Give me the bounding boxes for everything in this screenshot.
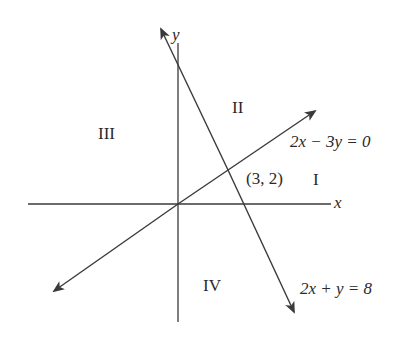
equation-label-line1: 2x − 3y = 0 [290,133,371,150]
line-2x-minus-3y-eq-0-lower [54,204,178,291]
region-label-iii: III [98,125,115,142]
x-axis-label: x [334,194,342,211]
region-label-iv: IV [203,277,221,294]
region-label-i: I [313,171,319,188]
line-2x-plus-y-eq-8 [228,170,294,312]
region-label-ii: II [232,99,243,116]
y-axis-label: y [172,26,180,43]
line-2x-minus-3y-eq-0 [178,111,315,204]
equation-label-line2: 2x + y = 8 [300,280,372,297]
line-2x-plus-y-eq-8-upper [161,29,228,170]
equation-text-line1: 2x − 3y = 0 [290,132,371,151]
intersection-point-label: (3, 2) [246,170,283,187]
equation-text-line2: 2x + y = 8 [300,279,372,298]
